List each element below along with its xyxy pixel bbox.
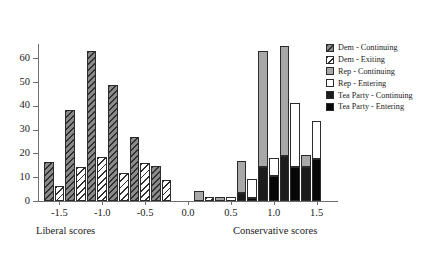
bar-segment-rep-ent	[247, 179, 257, 198]
x-tick-label: -1.0	[82, 207, 122, 219]
bar	[130, 137, 140, 201]
bar	[97, 157, 107, 201]
x-tick-mark	[317, 201, 318, 205]
bar-segment-tea-cont	[280, 156, 290, 201]
bar	[119, 173, 129, 201]
bar	[247, 179, 257, 201]
bar	[258, 51, 268, 201]
legend-item-rep-ent[interactable]: Rep - Entering	[326, 77, 424, 89]
bar-segment-rep-ent	[290, 103, 300, 167]
legend-swatch-icon	[326, 67, 334, 75]
bar-chart: 0102030405060 -1.5-1.0-0.50.00.51.01.5 L…	[0, 0, 426, 257]
bar-segment-dem-exit	[205, 197, 215, 201]
bar-segment-rep-cont	[194, 191, 204, 201]
y-tick-label-wrap: 30	[0, 124, 38, 134]
x-tick-label: 0.5	[211, 207, 251, 219]
x-tick-mark	[188, 201, 189, 205]
bar	[55, 186, 65, 201]
x-tick-label: 1.0	[254, 207, 294, 219]
y-axis-line	[38, 44, 39, 202]
legend-item-tea-ent[interactable]: Tea Party - Entering	[326, 101, 424, 113]
legend-swatch-icon	[326, 44, 334, 52]
bar	[151, 166, 161, 201]
bar-segment-rep-cont	[301, 155, 311, 167]
bar-segment-tea-ent	[312, 159, 322, 201]
bar-segment-dem-exit	[140, 163, 150, 201]
bar-segment-tea-ent	[290, 167, 300, 201]
y-tick-label: 60	[6, 53, 30, 63]
bar	[65, 110, 75, 201]
legend: Dem - ContinuingDem - ExitingRep - Conti…	[326, 42, 424, 113]
bar	[162, 180, 172, 201]
legend-item-label: Dem - Continuing	[338, 43, 398, 52]
bar	[108, 85, 118, 201]
legend-item-label: Dem - Exiting	[338, 55, 385, 64]
legend-swatch-icon	[326, 79, 334, 87]
bar-segment-dem-cont	[65, 110, 75, 201]
bar-segment-dem-exit	[162, 180, 172, 201]
legend-item-dem-exit[interactable]: Dem - Exiting	[326, 54, 424, 66]
bar-segment-rep-ent	[226, 197, 236, 201]
bar	[194, 191, 204, 201]
legend-swatch-icon	[326, 103, 334, 111]
bar	[280, 46, 290, 201]
bar	[237, 161, 247, 201]
bar-segment-dem-cont	[44, 162, 54, 201]
legend-item-label: Rep - Continuing	[338, 67, 395, 76]
legend-item-rep-cont[interactable]: Rep - Continuing	[326, 66, 424, 78]
legend-item-label: Tea Party - Continuing	[338, 91, 413, 100]
bar	[269, 158, 279, 201]
bar-segment-tea-ent	[269, 176, 279, 201]
liberal-scores-annotation: Liberal scores	[36, 225, 95, 237]
x-tick-mark	[102, 201, 103, 205]
bar-segment-rep-ent	[312, 121, 322, 159]
legend-item-tea-cont[interactable]: Tea Party - Continuing	[326, 89, 424, 101]
bar	[290, 103, 300, 201]
conservative-scores-annotation: Conservative scores	[233, 225, 317, 237]
legend-swatch-icon	[326, 91, 334, 99]
bar	[76, 167, 86, 201]
legend-item-dem-cont[interactable]: Dem - Continuing	[326, 42, 424, 54]
x-tick-label: 0.0	[168, 207, 208, 219]
bar-segment-tea-cont	[258, 167, 268, 201]
bar-segment-tea-ent	[247, 198, 257, 201]
bar-segment-rep-cont	[215, 197, 225, 201]
bar	[87, 51, 97, 201]
y-tick-label: 0	[6, 196, 30, 206]
x-tick-mark	[274, 201, 275, 205]
bar-segment-rep-cont	[258, 51, 268, 167]
x-tick-label: -0.5	[125, 207, 165, 219]
x-tick-mark	[145, 201, 146, 205]
y-tick-label-wrap: 60	[0, 53, 38, 63]
bar-segment-rep-cont	[237, 161, 247, 193]
bar-segment-dem-exit	[97, 157, 107, 201]
y-tick-label: 40	[6, 100, 30, 110]
x-tick-label: -1.5	[39, 207, 79, 219]
bar-segment-dem-exit	[76, 167, 86, 201]
bar-segment-tea-cont	[237, 193, 247, 201]
bar	[205, 197, 215, 201]
bar-segment-rep-ent	[269, 158, 279, 176]
bar	[44, 162, 54, 201]
bar-segment-dem-cont	[108, 85, 118, 201]
bar-segment-dem-cont	[130, 137, 140, 201]
legend-item-label: Rep - Entering	[338, 79, 386, 88]
x-tick-label: 1.5	[297, 207, 337, 219]
x-tick-mark	[231, 201, 232, 205]
y-tick-label-wrap: 40	[0, 100, 38, 110]
bar-segment-dem-exit	[55, 186, 65, 201]
bar	[140, 163, 150, 201]
y-tick-label-wrap: 50	[0, 77, 38, 87]
y-tick-label-wrap: 0	[0, 196, 38, 206]
bar	[215, 197, 225, 201]
bar-segment-dem-cont	[87, 51, 97, 201]
bar	[226, 197, 236, 201]
bar-segment-rep-cont	[280, 46, 290, 155]
bar-segment-tea-cont	[301, 167, 311, 201]
y-tick-label-wrap: 20	[0, 148, 38, 158]
x-tick-mark	[59, 201, 60, 205]
y-tick-label: 20	[6, 148, 30, 158]
bar	[301, 155, 311, 201]
bar-segment-dem-cont	[151, 166, 161, 201]
y-tick-label-wrap: 10	[0, 172, 38, 182]
